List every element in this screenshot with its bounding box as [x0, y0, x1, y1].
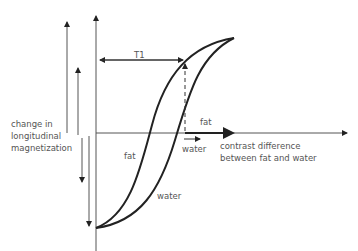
x-axis-label-line: contrast difference: [220, 140, 317, 152]
water-curve-label: water: [157, 190, 181, 202]
y-axis-label-line: longitudinal: [11, 130, 72, 142]
x-axis-label: contrast difference between fat and wate…: [220, 140, 317, 164]
t1-label: T1: [134, 49, 145, 61]
y-axis-label-line: change in: [11, 118, 72, 130]
y-axis-label: change in longitudinal magnetization: [11, 118, 72, 154]
x-axis-label-line: between fat and water: [220, 152, 317, 164]
y-axis-label-line: magnetization: [11, 142, 72, 154]
fat-arrow-label: fat: [200, 116, 212, 128]
fat-curve-label: fat: [124, 150, 136, 162]
water-arrow-label: water: [182, 143, 206, 155]
